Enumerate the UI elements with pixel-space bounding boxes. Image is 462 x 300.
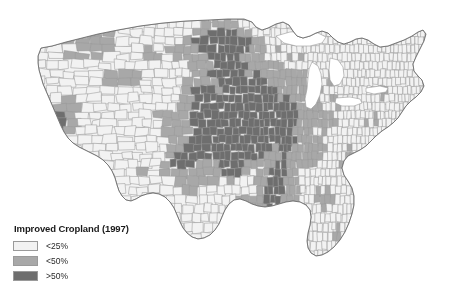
legend-label-low: <25%	[46, 241, 68, 251]
legend-swatch-low	[13, 241, 38, 251]
legend-title: Improved Cropland (1997)	[14, 223, 143, 234]
legend-item-mid: <50%	[13, 254, 143, 267]
legend-swatch-high	[13, 271, 38, 281]
legend-item-low: <25%	[13, 239, 143, 252]
legend-swatch-mid	[13, 256, 38, 266]
legend-label-high: >50%	[46, 271, 68, 281]
map-legend: Improved Cropland (1997) <25% <50% >50%	[13, 223, 143, 284]
legend-item-high: >50%	[13, 269, 143, 282]
cropland-choropleth-map: Improved Cropland (1997) <25% <50% >50%	[0, 0, 462, 300]
legend-label-mid: <50%	[46, 256, 68, 266]
